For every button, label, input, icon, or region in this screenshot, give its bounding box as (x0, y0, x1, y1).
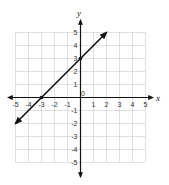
x-tick-label: 1 (92, 101, 96, 108)
y-tick-label: 4 (74, 42, 78, 49)
x-tick-label: -2 (51, 101, 57, 108)
x-tick-label: -1 (64, 101, 70, 108)
x-tick-label: 3 (118, 101, 122, 108)
y-tick-label: 2 (74, 68, 78, 75)
x-tick-label: 5 (144, 101, 148, 108)
data-point (79, 57, 83, 61)
line-series (16, 33, 107, 124)
y-axis-label: y (76, 8, 81, 18)
y-tick-label: -2 (71, 120, 77, 127)
coordinate-plane: -5-4-3-2-101234554321-1-2-3-4-5 x y (0, 0, 169, 185)
y-tick-label: 5 (74, 29, 78, 36)
x-tick-label: 0 (81, 90, 85, 97)
x-tick-label: -3 (38, 101, 44, 108)
data-line (16, 33, 107, 124)
x-tick-label: 4 (131, 101, 135, 108)
y-tick-label: -4 (71, 146, 77, 153)
y-tick-label: -3 (71, 133, 77, 140)
y-tick-label: -1 (71, 107, 77, 114)
x-tick-label: 2 (105, 101, 109, 108)
axes (8, 20, 153, 177)
y-tick-label: -5 (71, 159, 77, 166)
x-tick-label: -5 (12, 101, 18, 108)
x-tick-label: -4 (25, 101, 31, 108)
y-tick-label: 1 (74, 81, 78, 88)
x-axis-label: x (155, 93, 160, 103)
data-point (40, 96, 44, 100)
